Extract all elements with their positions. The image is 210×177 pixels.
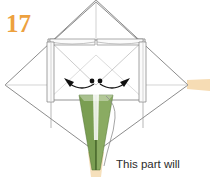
caption-text: This part will become the stem. — [116, 127, 210, 177]
origami-step-figure: 17 This part will become the stem. — [0, 0, 210, 177]
side-flap-strip-left — [47, 42, 54, 102]
fold-dot-right — [98, 79, 103, 84]
fold-dot-left — [90, 79, 95, 84]
top-peak-group — [54, 2, 138, 40]
inner-square — [48, 39, 145, 100]
side-flap-strip-right — [139, 42, 146, 102]
step-number: 17 — [6, 11, 31, 36]
caption-line-1: This part will — [116, 157, 210, 172]
inner-folded-square-group — [48, 39, 145, 100]
right-tan-tab — [187, 79, 210, 91]
